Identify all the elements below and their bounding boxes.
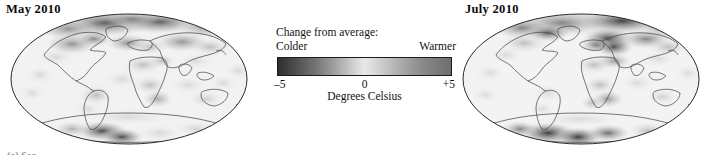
- legend-caption: Change from average:: [276, 26, 456, 39]
- mollweide-globe-may: [10, 13, 248, 145]
- legend-units-label: Degrees Celsius: [276, 90, 453, 102]
- legend-label-warmer: Warmer: [419, 40, 456, 52]
- world-map-july-2010: [462, 13, 700, 145]
- legend-end-labels: Colder Warmer: [276, 40, 456, 54]
- legend-tick-max: +5: [443, 78, 455, 90]
- legend-label-colder: Colder: [276, 40, 307, 52]
- mollweide-globe-july: [462, 13, 700, 145]
- legend-tick-min: –5: [274, 78, 286, 90]
- colorbar-legend: Change from average: Colder Warmer –5 0 …: [276, 26, 456, 98]
- caption-fragment: (a) Sea: [7, 151, 36, 155]
- world-map-may-2010: [10, 13, 248, 145]
- legend-gradient-bar: [277, 57, 452, 76]
- legend-tick-mid: 0: [362, 78, 368, 90]
